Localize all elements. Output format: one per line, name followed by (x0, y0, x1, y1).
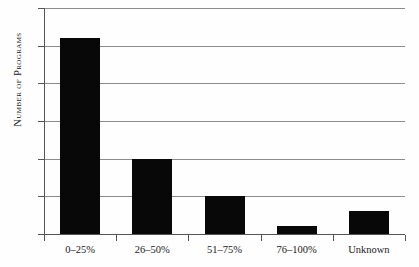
y-axis-title: Number of Programs (12, 0, 23, 160)
x-tick-label: Unknown (333, 244, 405, 256)
bar (277, 226, 317, 234)
bar-chart-figure: Number of Programs 051015202530 0–25%26–… (0, 0, 419, 267)
x-tick-label: 51–75% (188, 244, 260, 256)
plot-area (44, 8, 405, 234)
x-tick-label: 26–50% (116, 244, 188, 256)
gridline (44, 8, 405, 9)
x-tick-label: 0–25% (44, 244, 116, 256)
bar (349, 211, 389, 234)
x-tick-label: 76–100% (261, 244, 333, 256)
x-tick-mark (333, 235, 334, 241)
x-tick-mark (261, 235, 262, 241)
x-tick-mark (116, 235, 117, 241)
bar (132, 159, 172, 234)
y-axis-line (44, 8, 45, 235)
bar (60, 38, 100, 234)
x-tick-mark (405, 235, 406, 241)
x-tick-mark (188, 235, 189, 241)
x-axis-line (44, 234, 405, 235)
bar (205, 196, 245, 234)
x-tick-mark (44, 235, 45, 241)
